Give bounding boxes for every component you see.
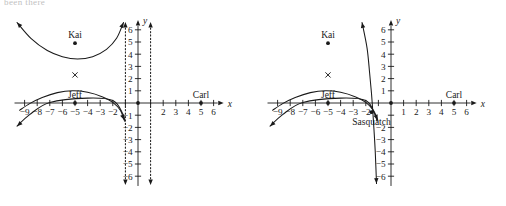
y-axis-arrow xyxy=(136,20,140,25)
y-axis-tick-label: 5 xyxy=(128,37,133,47)
y-axis-tick-label: −4 xyxy=(123,147,133,157)
y-axis-tick-label: 1 xyxy=(128,86,133,96)
point-label-sasquatch: Sasquatch xyxy=(352,117,391,127)
x-marker xyxy=(72,72,77,77)
data-point-marker xyxy=(199,101,203,105)
y-axis-tick-label: −3 xyxy=(123,135,133,145)
curve-arrow-end xyxy=(119,22,123,28)
point-label-carl: Carl xyxy=(446,90,463,100)
y-axis-tick-label: 6 xyxy=(128,25,133,35)
curve-arrow-start xyxy=(361,22,365,28)
x-axis-label: x xyxy=(227,99,233,109)
data-point-marker xyxy=(326,101,330,105)
y-axis-tick-label: 5 xyxy=(381,37,386,47)
graph-panel-left: xy−9−8−7−6−5−4−3−223456−6−5−4−3−2−112345… xyxy=(0,0,253,206)
x-axis-tick-label: −7 xyxy=(298,107,308,117)
x-axis-tick-label: 2 xyxy=(161,107,166,117)
x-axis-tick-label: 4 xyxy=(186,107,191,117)
graph-panel-right: xy−9−8−7−6−5−4−3−2123456−6−5−4−3−2123456… xyxy=(253,0,506,206)
point-label-jeff: Jeff xyxy=(68,90,83,100)
x-axis-tick-label: 6 xyxy=(211,107,216,117)
data-point-marker xyxy=(73,101,77,105)
data-point-marker xyxy=(326,41,330,45)
point-label-kai: Kai xyxy=(321,30,335,40)
data-point-marker xyxy=(73,41,77,45)
y-axis-tick-label: 6 xyxy=(381,25,386,35)
graph-svg-right: xy−9−8−7−6−5−4−3−2123456−6−5−4−3−2123456… xyxy=(253,0,506,206)
x-axis-tick-label: 5 xyxy=(452,107,457,117)
point-label-kai: Kai xyxy=(68,30,82,40)
y-axis-arrow xyxy=(389,20,393,25)
x-axis-tick-label: 3 xyxy=(174,107,179,117)
curve-upper-branch xyxy=(17,22,123,59)
y-axis-tick-label: 3 xyxy=(381,62,386,72)
y-axis-tick-label: −5 xyxy=(123,159,133,169)
y-axis-label: y xyxy=(142,16,148,26)
point-label-jeff: Jeff xyxy=(321,90,336,100)
x-axis-tick-label: −3 xyxy=(95,107,105,117)
y-axis-label: y xyxy=(395,16,401,26)
y-axis-tick-label: 4 xyxy=(128,50,133,60)
x-axis-tick-label: 2 xyxy=(414,107,419,117)
asymptote-arrow-up xyxy=(148,22,152,27)
figure-container: been there xy−9−8−7−6−5−4−3−223456−6−5−4… xyxy=(0,0,506,206)
x-axis-tick-label: 5 xyxy=(199,107,204,117)
x-axis-tick-label: −2 xyxy=(108,107,118,117)
y-axis-tick-label: 2 xyxy=(128,74,133,84)
x-axis-arrow xyxy=(471,101,476,105)
x-axis-tick-label: −5 xyxy=(323,107,333,117)
x-axis-tick-label: −4 xyxy=(336,107,346,117)
y-axis-tick-label: −2 xyxy=(123,123,133,133)
x-axis-tick-label: −2 xyxy=(361,107,371,117)
x-axis-tick-label: −7 xyxy=(45,107,55,117)
x-axis-tick-label: 6 xyxy=(464,107,469,117)
x-axis-tick-label: 3 xyxy=(427,107,432,117)
x-axis-tick-label: 1 xyxy=(401,107,406,117)
asymptote-arrow-down xyxy=(148,180,152,185)
x-axis-tick-label: −3 xyxy=(348,107,358,117)
x-axis-tick-label: −6 xyxy=(58,107,68,117)
y-axis-tick-label: 4 xyxy=(381,50,386,60)
y-axis-tick-label: −3 xyxy=(376,135,386,145)
y-axis-tick-label: −4 xyxy=(376,147,386,157)
data-point-marker xyxy=(389,101,393,105)
x-axis-tick-label: −4 xyxy=(83,107,93,117)
asymptote-arrow-down xyxy=(123,180,127,185)
data-point-marker xyxy=(452,101,456,105)
point-label-carl: Carl xyxy=(193,90,210,100)
data-point-marker xyxy=(370,110,374,114)
x-marker xyxy=(325,72,330,77)
y-axis-tick-label: 2 xyxy=(381,74,386,84)
y-axis-tick-label: −5 xyxy=(376,159,386,169)
y-axis-tick-label: 3 xyxy=(128,62,133,72)
x-axis-tick-label: 4 xyxy=(439,107,444,117)
y-axis-tick-label: 1 xyxy=(381,86,386,96)
graph-svg-left: xy−9−8−7−6−5−4−3−223456−6−5−4−3−2−112345… xyxy=(0,0,253,206)
x-axis-tick-label: −5 xyxy=(70,107,80,117)
x-axis-arrow xyxy=(218,101,223,105)
data-point-marker xyxy=(136,101,140,105)
x-axis-label: x xyxy=(480,99,486,109)
x-axis-tick-label: −6 xyxy=(311,107,321,117)
